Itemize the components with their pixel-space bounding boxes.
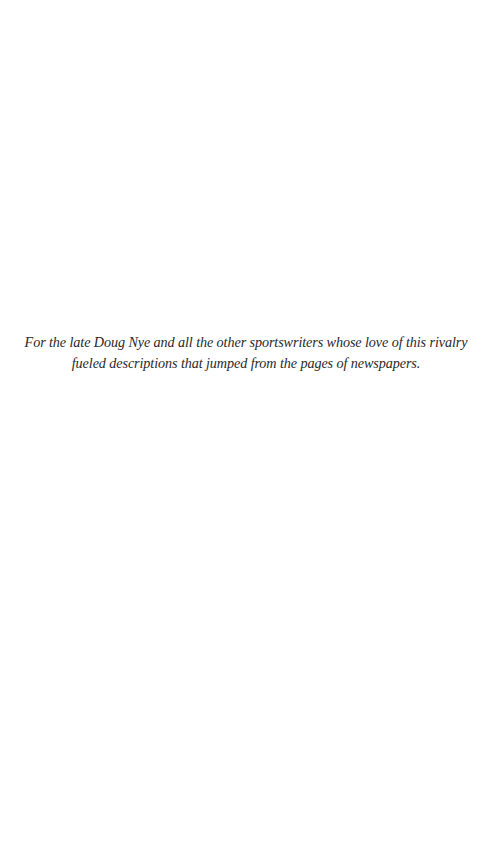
dedication-text: For the late Doug Nye and all the other … <box>20 332 472 374</box>
dedication-line-1: For the late Doug Nye and all the other … <box>20 332 472 353</box>
dedication-line-2: fueled descriptions that jumped from the… <box>20 353 472 374</box>
book-page: For the late Doug Nye and all the other … <box>0 0 492 858</box>
